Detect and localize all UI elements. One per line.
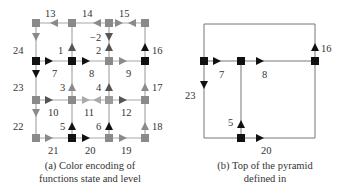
arrow-down-icon (32, 70, 40, 78)
label-10: 10 (48, 107, 59, 118)
label-20: 20 (85, 145, 96, 156)
node-gray (32, 19, 40, 27)
label-8: 8 (89, 68, 94, 79)
label-16: 16 (152, 45, 163, 56)
node-black (68, 134, 76, 142)
label-3: 3 (60, 82, 65, 93)
node-gray (105, 134, 113, 142)
arrow-up-icon (105, 43, 113, 51)
label-22: 22 (13, 121, 24, 132)
panel-b-pyramid-top: 7 8 16 23 5 20 (b) Top of the pyramid de… (185, 24, 332, 184)
node-gray (141, 96, 149, 104)
arrow-up-icon (141, 122, 149, 130)
node-gray (32, 96, 40, 104)
arrow-right-icon (45, 134, 53, 142)
arrow-down-icon (200, 81, 208, 89)
label-14: 14 (82, 8, 93, 19)
node-gray (105, 96, 113, 104)
arrow-down-icon (32, 33, 40, 41)
label-20: 20 (261, 145, 272, 156)
label-21: 21 (48, 145, 59, 156)
arrow-right-icon (45, 57, 53, 65)
arrow-right-icon (82, 57, 90, 65)
label-12: 12 (121, 107, 132, 118)
arrow-left-icon (128, 19, 136, 27)
label-18: 18 (152, 121, 163, 132)
label-7: 7 (52, 68, 57, 79)
arrow-right-icon (213, 57, 221, 65)
node-gray (141, 19, 149, 27)
arrow-up-icon (237, 120, 245, 128)
node-black (237, 57, 245, 65)
label-23: 23 (185, 90, 196, 101)
label-5: 5 (60, 121, 65, 132)
arrow-up-icon (141, 83, 149, 91)
node-black (68, 57, 76, 65)
diagram-canvas: 13 14 15 24 1 −2 2 16 7 8 9 23 3 4 17 10… (0, 0, 348, 194)
arrow-up-icon (68, 122, 76, 130)
node-black (200, 57, 208, 65)
arrow-right-icon (45, 96, 53, 104)
node-gray (32, 134, 40, 142)
arrow-right-icon (119, 134, 127, 142)
label-11: 11 (84, 107, 94, 118)
node-black (32, 57, 40, 65)
label-6: 6 (96, 121, 101, 132)
arrow-right-icon (82, 134, 90, 142)
label-4: 4 (96, 82, 102, 93)
arrow-down-icon (32, 109, 40, 117)
label-minus-2: −2 (90, 32, 101, 43)
label-23: 23 (13, 82, 24, 93)
node-black (141, 57, 149, 65)
arrow-right-icon (115, 19, 123, 27)
arrow-up-icon (68, 83, 76, 91)
arrow-up-icon (68, 43, 76, 51)
node-gray (105, 19, 113, 27)
label-2: 2 (96, 45, 101, 56)
label-24: 24 (13, 45, 24, 56)
arrow-right-icon (82, 96, 90, 104)
label-7: 7 (219, 69, 224, 80)
arrow-down-icon (105, 33, 113, 41)
arrow-up-icon (105, 122, 113, 130)
label-9: 9 (126, 68, 131, 79)
caption-a-line1: (a) Color encoding of (45, 160, 136, 172)
arrow-right-icon (119, 96, 127, 104)
arrow-up-icon (141, 43, 149, 51)
arrow-up-icon (105, 83, 113, 91)
node-gray (105, 57, 113, 65)
node-gray (68, 19, 76, 27)
caption-b-line2: defined in (244, 173, 287, 184)
caption-b-line1: (b) Top of the pyramid (217, 160, 313, 172)
arrow-left-icon (93, 96, 101, 104)
caption-a-line2: functions state and level (39, 173, 141, 184)
node-gray (141, 134, 149, 142)
label-1: 1 (58, 45, 63, 56)
node-gray (68, 96, 76, 104)
label-15: 15 (119, 8, 130, 19)
arrow-up-icon (311, 43, 319, 51)
panel-a-grid: 13 14 15 24 1 −2 2 16 7 8 9 23 3 4 17 10… (13, 8, 163, 184)
arrow-right-icon (256, 134, 264, 142)
label-8: 8 (262, 69, 267, 80)
arrow-left-icon (50, 19, 58, 27)
label-16: 16 (321, 43, 332, 54)
arrow-right-icon (256, 57, 264, 65)
arrow-right-icon (119, 57, 127, 65)
label-19: 19 (121, 145, 132, 156)
label-13: 13 (45, 8, 56, 19)
node-black (237, 134, 245, 142)
panel-b-lines (204, 24, 315, 138)
label-17: 17 (152, 82, 163, 93)
arrow-left-icon (93, 19, 101, 27)
label-5: 5 (228, 117, 233, 128)
node-black (311, 57, 319, 65)
